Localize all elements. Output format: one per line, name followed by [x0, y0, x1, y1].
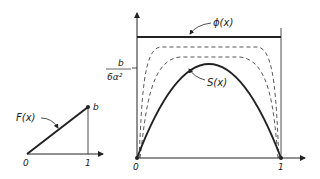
left-x-one: 1 — [85, 158, 91, 168]
phi-label-pointer — [190, 23, 211, 34]
s-end-point — [279, 156, 283, 160]
right-plot: b 6α² ϕ(x) S(x) 0 1 — [106, 13, 305, 172]
left-b-label: b — [93, 102, 99, 112]
right-x-one: 1 — [278, 162, 284, 172]
right-x-origin: 0 — [133, 162, 139, 172]
y-tick-numerator: b — [118, 58, 124, 68]
y-tick-denominator: 6α² — [107, 72, 123, 82]
phi-label: ϕ(x) — [213, 17, 233, 28]
s-start-point — [135, 156, 139, 160]
f-line — [27, 107, 88, 154]
left-plot: F(x) b 0 1 — [16, 102, 103, 168]
diagram: F(x) b 0 1 b 6α² ϕ(x) S(x) 0 1 — [0, 0, 320, 179]
f-label-pointer — [41, 118, 58, 128]
f-endpoint — [86, 105, 90, 109]
s-label: S(x) — [207, 77, 227, 88]
f-label: F(x) — [16, 112, 35, 123]
left-x-origin: 0 — [23, 158, 29, 168]
